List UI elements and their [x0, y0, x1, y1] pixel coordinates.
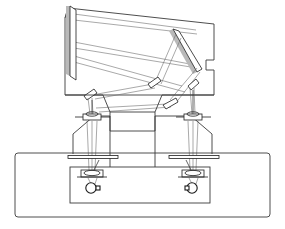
right-aperture-bar	[169, 156, 219, 159]
left-detector-tab	[96, 186, 100, 190]
left-collimator-barrel	[83, 114, 101, 120]
right-collimator-barrel	[184, 114, 202, 120]
left-aperture-bar	[68, 156, 118, 159]
primary-mirror-face	[70, 6, 76, 80]
left-detector	[86, 183, 96, 193]
primary-mirror-shade	[66, 6, 70, 76]
right-detector-tab	[185, 186, 189, 190]
optical-system-diagram	[0, 0, 285, 229]
primary-mirror	[66, 6, 76, 80]
diagram-background	[0, 0, 285, 229]
diagram-canvas: Dual-channel folded optical system schem…	[0, 0, 285, 229]
